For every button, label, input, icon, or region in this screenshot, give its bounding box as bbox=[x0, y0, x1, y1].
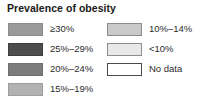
legend-color-swatch bbox=[8, 63, 43, 76]
legend-item: 10%–14% bbox=[107, 19, 192, 39]
legend-item-label: 15%–19% bbox=[50, 84, 93, 94]
legend-title: Prevalence of obesity bbox=[7, 2, 116, 14]
legend-item-label: 25%–29% bbox=[50, 44, 93, 54]
legend-color-swatch bbox=[8, 83, 43, 96]
legend-item: 25%–29% bbox=[8, 39, 93, 59]
legend-item: ≥30% bbox=[8, 19, 93, 39]
legend-item-label: 20%–24% bbox=[50, 64, 93, 74]
legend-color-swatch bbox=[107, 63, 142, 76]
legend-item-label: 10%–14% bbox=[149, 24, 192, 34]
legend-item: <10% bbox=[107, 39, 192, 59]
legend-item-label: <10% bbox=[149, 44, 174, 54]
legend-color-swatch bbox=[8, 23, 43, 36]
map-legend: Prevalence of obesity ≥30%25%–29%20%–24%… bbox=[0, 0, 200, 106]
legend-color-swatch bbox=[107, 43, 142, 56]
legend-item: No data bbox=[107, 59, 192, 79]
legend-item: 15%–19% bbox=[8, 79, 93, 99]
legend-color-swatch bbox=[107, 23, 142, 36]
legend-item-label: No data bbox=[149, 64, 182, 74]
legend-column-right: 10%–14%<10%No data bbox=[107, 19, 192, 79]
legend-item: 20%–24% bbox=[8, 59, 93, 79]
legend-item-label: ≥30% bbox=[50, 24, 74, 34]
legend-column-left: ≥30%25%–29%20%–24%15%–19% bbox=[8, 19, 93, 99]
legend-color-swatch bbox=[8, 43, 43, 56]
